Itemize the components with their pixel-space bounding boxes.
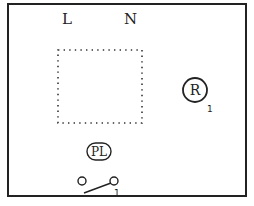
switch-symbol: 1	[78, 177, 120, 198]
relay-label: R	[190, 82, 201, 98]
diagram-canvas: R 1 PL 1	[0, 0, 254, 206]
switch-marker: 1	[114, 188, 120, 198]
relay-marker: 1	[207, 104, 213, 114]
switch-terminal-left	[78, 177, 86, 185]
switch-lever	[84, 183, 111, 193]
pilot-lamp-label: PL	[91, 145, 107, 159]
pilot-lamp-symbol: PL	[87, 143, 111, 160]
dotted-placeholder-box	[58, 50, 142, 123]
relay-symbol: R 1	[183, 78, 213, 114]
switch-terminal-right	[110, 177, 118, 185]
